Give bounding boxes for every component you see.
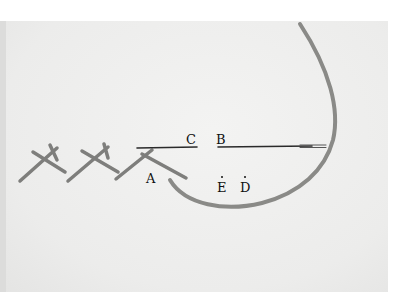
label-e: E bbox=[217, 181, 227, 194]
point-d-dot bbox=[244, 176, 246, 178]
needle bbox=[137, 145, 326, 148]
cross-stitches bbox=[20, 144, 186, 181]
label-a: A bbox=[146, 172, 155, 185]
label-b: B bbox=[216, 133, 226, 146]
point-e-dot bbox=[221, 176, 223, 178]
label-c: C bbox=[186, 133, 196, 146]
label-d: D bbox=[240, 181, 250, 194]
stitch-illustration bbox=[0, 0, 395, 298]
thread bbox=[170, 24, 335, 207]
